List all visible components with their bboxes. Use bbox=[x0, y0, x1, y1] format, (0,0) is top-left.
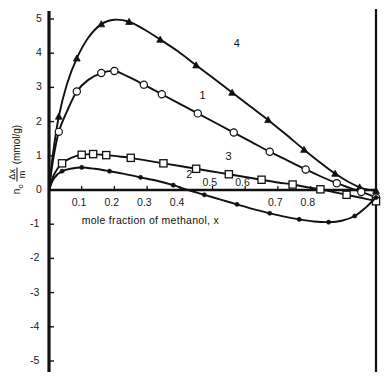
data-point-2 bbox=[80, 165, 84, 169]
data-point-3 bbox=[289, 181, 296, 188]
data-point-2 bbox=[326, 220, 330, 224]
data-point-3 bbox=[225, 171, 232, 178]
data-point-3 bbox=[193, 165, 200, 172]
data-point-3 bbox=[90, 150, 97, 157]
data-point-4 bbox=[55, 113, 62, 119]
curve-label-3: 3 bbox=[226, 150, 232, 162]
x-tick-label-0p3: 0.3 bbox=[137, 196, 152, 208]
data-point-1 bbox=[158, 91, 165, 98]
y-tick-label-2: 2 bbox=[36, 115, 42, 127]
data-point-1 bbox=[333, 180, 340, 187]
curve-label-1: 1 bbox=[199, 89, 205, 101]
x-tick-label-0p8: 0.8 bbox=[301, 196, 316, 208]
chart-figure: no Δx m (mmol/g) mole fraction of methan… bbox=[0, 0, 391, 381]
data-point-3 bbox=[343, 191, 350, 198]
data-point-1 bbox=[302, 166, 309, 173]
series-4 bbox=[49, 18, 379, 193]
data-point-1 bbox=[266, 148, 273, 155]
y-axis-label-n-subscript: o bbox=[16, 184, 25, 188]
y-axis-label-n: no bbox=[11, 184, 22, 194]
data-point-1 bbox=[73, 88, 80, 95]
y-tick-label-1: 1 bbox=[36, 149, 42, 161]
data-point-2 bbox=[235, 202, 239, 206]
data-point-1 bbox=[98, 69, 105, 76]
data-point-3 bbox=[58, 160, 65, 167]
data-point-2 bbox=[353, 214, 357, 218]
y-tick-label-5: 5 bbox=[36, 12, 42, 24]
x-tick-label-0p1: 0.1 bbox=[72, 196, 87, 208]
x-tick-label-0p6: 0.6 bbox=[235, 176, 250, 188]
x-tick-label-0p5: 0.5 bbox=[203, 176, 218, 188]
data-point-1 bbox=[55, 128, 62, 135]
plot-area bbox=[0, 0, 391, 381]
data-point-3 bbox=[258, 176, 265, 183]
data-point-1 bbox=[358, 188, 365, 195]
x-axis-title: mole fraction of methanol, x bbox=[82, 214, 219, 226]
data-point-1 bbox=[140, 81, 147, 88]
data-point-2 bbox=[202, 193, 206, 197]
y-axis-label-denominator: m bbox=[18, 167, 27, 182]
y-tick-label-3: 3 bbox=[36, 80, 42, 92]
data-point-2 bbox=[374, 195, 378, 199]
data-point-2 bbox=[107, 169, 111, 173]
data-point-2 bbox=[268, 211, 272, 215]
data-point-2 bbox=[297, 217, 301, 221]
data-point-4 bbox=[73, 55, 80, 61]
data-point-2 bbox=[138, 175, 142, 179]
data-point-3 bbox=[317, 186, 324, 193]
data-point-2 bbox=[60, 169, 64, 173]
y-axis-label-units: (mmol/g) bbox=[11, 125, 22, 164]
data-point-3 bbox=[127, 154, 134, 161]
y-axis-label: no Δx m (mmol/g) bbox=[8, 115, 27, 205]
data-point-3 bbox=[103, 152, 110, 159]
data-point-3 bbox=[78, 151, 85, 158]
x-tick-label-0p2: 0.2 bbox=[104, 196, 119, 208]
data-point-3 bbox=[160, 160, 167, 167]
x-tick-label-0p4: 0.4 bbox=[170, 196, 185, 208]
data-point-1 bbox=[194, 110, 201, 117]
curve-label-2: 2 bbox=[186, 168, 192, 180]
x-tick-label-0p7: 0.7 bbox=[268, 196, 283, 208]
y-tick-label-neg1: -1 bbox=[30, 217, 39, 229]
y-tick-label-4: 4 bbox=[36, 46, 42, 58]
y-axis-label-fraction: Δx m bbox=[8, 167, 27, 182]
y-tick-label-neg2: -2 bbox=[30, 251, 39, 263]
series-line-4 bbox=[49, 20, 376, 191]
y-tick-label-neg4: -4 bbox=[30, 320, 39, 332]
data-point-2 bbox=[171, 183, 175, 187]
data-point-1 bbox=[111, 67, 118, 74]
y-tick-label-neg5: -5 bbox=[30, 354, 39, 366]
y-tick-label-neg3: -3 bbox=[30, 286, 39, 298]
y-tick-label-0: 0 bbox=[36, 183, 42, 195]
data-point-1 bbox=[230, 129, 237, 136]
curve-label-4: 4 bbox=[234, 37, 240, 49]
